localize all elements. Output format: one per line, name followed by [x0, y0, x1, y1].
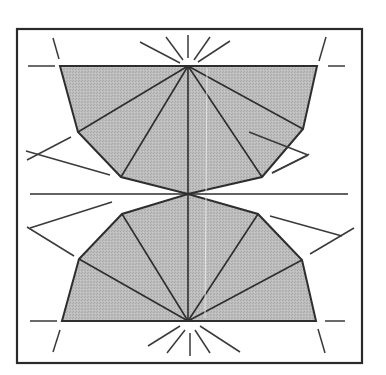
- top-right-tick: [319, 37, 326, 61]
- bottom-left-tick: [53, 330, 60, 352]
- folding-diagram: [0, 0, 386, 375]
- bottom-right-tick: [318, 329, 325, 353]
- upper-left-guide-a: [27, 137, 71, 160]
- bottom-apex-rays: [148, 326, 240, 356]
- lower-left-guide-a: [30, 202, 112, 228]
- lower-right-guide-a: [270, 216, 342, 236]
- top-left-tick: [53, 38, 59, 59]
- lower-right-guide-b: [310, 228, 354, 254]
- lower-left-guide-b: [27, 227, 74, 256]
- bottom-shape: [62, 194, 316, 321]
- bottom-shape-fill: [62, 194, 316, 321]
- upper-left-guide-b: [26, 151, 110, 175]
- top-apex-rays: [140, 35, 230, 63]
